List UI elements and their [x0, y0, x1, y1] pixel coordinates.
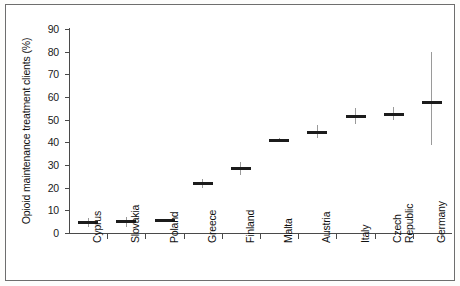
x-tick — [260, 234, 261, 239]
y-tick-label: 90 — [48, 23, 59, 35]
y-tick: 40 — [65, 142, 69, 143]
x-tick — [107, 234, 108, 239]
plot-area: 0102030405060708090 — [69, 29, 451, 233]
y-tick-label: 60 — [48, 91, 59, 103]
x-tick — [222, 234, 223, 239]
x-tick — [298, 234, 299, 239]
y-tick: 50 — [65, 120, 69, 121]
y-tick: 80 — [65, 52, 69, 53]
y-tick-label: 10 — [48, 204, 59, 216]
data-marker — [193, 182, 213, 185]
y-tick-label: 0 — [53, 227, 59, 239]
y-axis-label: Opioid maintenance treatment clients (%) — [20, 29, 34, 233]
figure-border: Opioid maintenance treatment clients (%)… — [5, 4, 455, 281]
data-marker — [346, 115, 366, 118]
y-tick: 60 — [65, 97, 69, 98]
y-tick: 0 — [65, 233, 69, 234]
y-tick: 10 — [65, 210, 69, 211]
y-tick: 30 — [65, 165, 69, 166]
x-tick — [375, 234, 376, 239]
y-tick-label: 70 — [48, 68, 59, 80]
y-tick-label: 40 — [48, 136, 59, 148]
y-tick: 90 — [65, 29, 69, 30]
data-marker — [231, 167, 251, 170]
y-tick: 20 — [65, 188, 69, 189]
data-marker — [384, 113, 404, 116]
figure-container: Opioid maintenance treatment clients (%)… — [0, 0, 460, 286]
x-tick — [336, 234, 337, 239]
data-marker — [307, 131, 327, 134]
x-tick — [145, 234, 146, 239]
data-marker — [422, 101, 442, 104]
y-tick: 70 — [65, 74, 69, 75]
data-marker — [269, 139, 289, 142]
error-bar — [431, 52, 432, 145]
x-tick — [184, 234, 185, 239]
x-tick — [413, 234, 414, 239]
y-tick-label: 20 — [48, 182, 59, 194]
y-tick-label: 30 — [48, 159, 59, 171]
y-tick-label: 80 — [48, 46, 59, 58]
y-tick-label: 50 — [48, 114, 59, 126]
